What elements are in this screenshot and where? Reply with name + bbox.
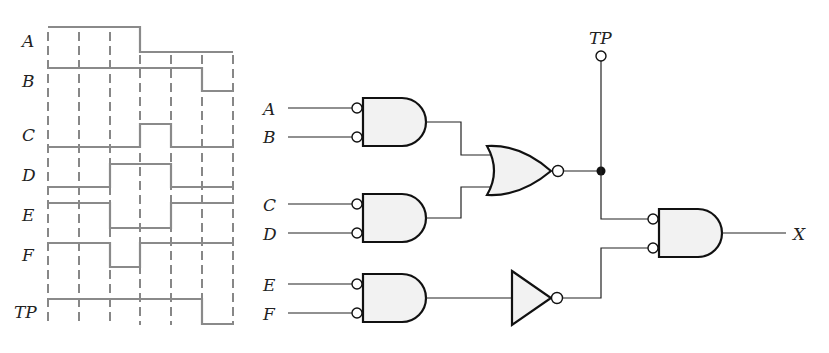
signal-label-b: B	[21, 71, 35, 91]
nor-output-bubble	[553, 166, 564, 177]
nor-gate	[487, 146, 564, 195]
logic-circuit: A B C D E F	[261, 28, 806, 325]
timing-and-logic-diagram: A B C D E F TP A B C D E F	[0, 0, 829, 353]
and-gate-cd	[352, 194, 426, 242]
signal-label-tp: TP	[14, 302, 37, 322]
inverter-bubble-f	[352, 308, 362, 318]
inverter-bubble-b	[352, 132, 362, 142]
waveform-c	[48, 124, 233, 147]
test-point-label: TP	[589, 28, 612, 48]
signal-label-a: A	[20, 31, 34, 51]
waveform-a	[48, 27, 233, 52]
wire-junction-to-final-and	[601, 171, 648, 219]
timing-diagram: A B C D E F TP	[14, 27, 233, 325]
not-gate	[512, 271, 563, 325]
signal-label-f: F	[21, 245, 35, 265]
signal-label-e: E	[21, 205, 35, 225]
input-label-d: D	[262, 224, 277, 244]
input-label-b: B	[262, 127, 276, 147]
wire-not-to-final-and	[563, 248, 648, 298]
waveform-f	[48, 243, 233, 267]
input-label-a: A	[261, 99, 275, 119]
output-label-x: X	[791, 224, 806, 244]
inverter-bubble-final-2	[648, 243, 658, 253]
and-gate-ab	[352, 98, 426, 146]
signal-label-c: C	[22, 125, 35, 145]
input-label-e: E	[262, 275, 276, 295]
time-gridlines	[48, 32, 233, 325]
final-and-gate	[648, 209, 722, 257]
wire-and2-to-nor	[426, 187, 490, 218]
input-label-f: F	[262, 304, 276, 324]
input-label-c: C	[263, 195, 276, 215]
inverter-bubble-a	[352, 103, 362, 113]
inverter-bubble-final-1	[648, 214, 658, 224]
and-gate-ef	[352, 274, 426, 322]
not-output-bubble	[552, 293, 563, 304]
inverter-bubble-d	[352, 228, 362, 238]
signal-label-d: D	[21, 165, 36, 185]
test-point-terminal[interactable]	[596, 51, 606, 61]
wire-and1-to-nor	[426, 122, 490, 155]
inverter-bubble-e	[352, 279, 362, 289]
inverter-bubble-c	[352, 199, 362, 209]
